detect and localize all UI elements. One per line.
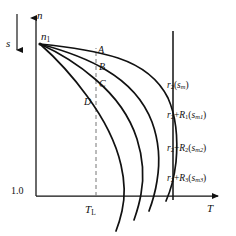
- curve-label-r2-R1-sm1: r2+R1(sm1): [167, 111, 206, 121]
- curve-r2-sm: [40, 44, 177, 201]
- s-axis-label: s: [6, 38, 10, 49]
- recrystallization-diagram: n n1 s 1.0 TL T A B C D r2(sm) r2+R1(sm1…: [0, 0, 236, 236]
- y-axis-label: n: [37, 10, 43, 21]
- point-label-b: B: [99, 62, 105, 72]
- curve-label-r2-sm: r2(sm): [167, 81, 189, 91]
- curve-r2-R3-sm3: [40, 44, 124, 231]
- point-label-c: C: [99, 79, 106, 89]
- y-axis-bottom-tick-label: 1.0: [11, 186, 24, 196]
- curve-label-r2-R3-sm3: r2+R3(sm3): [167, 174, 206, 184]
- n1-label: n1: [41, 31, 50, 43]
- curve-label-r2-R2-sm2: r2+R2(sm2): [167, 144, 206, 154]
- curve-r2-R2-sm2: [40, 44, 143, 220]
- x-axis-label: T: [207, 203, 213, 214]
- tl-tick-label: TL: [85, 204, 96, 216]
- point-label-d: D: [84, 97, 91, 107]
- point-label-a: A: [98, 45, 104, 55]
